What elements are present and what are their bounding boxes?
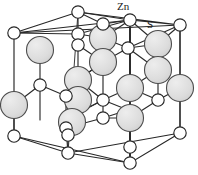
s-atom-label: S xyxy=(147,19,153,30)
zns-crystal-structure-figure: Zn S xyxy=(0,0,198,175)
lattice-drawing xyxy=(0,0,198,175)
zn-atom-label: Zn xyxy=(117,1,129,12)
